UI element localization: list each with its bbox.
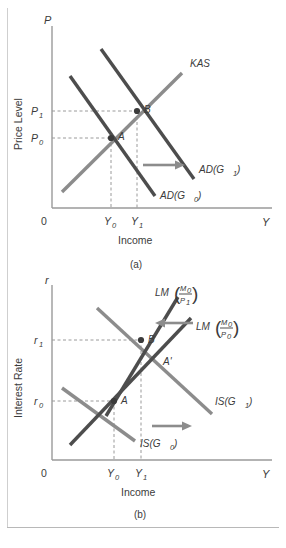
panel-a-origin-label: 0 (41, 215, 47, 227)
curve-is-g0-label: IS(G 0 ) (140, 438, 177, 452)
point-b-b-label: B (148, 334, 155, 345)
curve-lm-p1-label: LM ( M 0 P 1 ) (155, 283, 198, 307)
curve-ad-g1-label: AD(G 1 ) (198, 164, 240, 178)
panel-b-xtick-y0-base: Y (107, 467, 115, 479)
curve-is-g1-label-close: ) (248, 396, 252, 407)
panel-a-caption: (a) (130, 259, 142, 270)
panel-b-y-axis-title: Interest Rate (12, 358, 24, 418)
curve-lm-p1-paren-close: ) (192, 283, 198, 304)
curve-lm-p0-den-sub: 0 (227, 332, 232, 341)
curve-ad-g0-label-close: ) (197, 190, 201, 201)
panel-b: A B A' r Y 0 r 1 r 0 Y 0 Y (0, 275, 286, 535)
curve-lm-p0-num-base: M (221, 318, 228, 327)
panel-a-ytick-p1: P 1 (31, 105, 43, 120)
panel-a-xtick-y0: Y 0 (104, 215, 117, 230)
panel-b-ytick-r1-base: r (34, 334, 38, 346)
panel-b-is-shift-arrow (152, 422, 192, 431)
point-b-aprime-label: A' (162, 356, 173, 367)
panel-a-xtick-y1-sub: 1 (139, 221, 143, 230)
panel-b-x-axis-symbol: Y (262, 468, 270, 480)
panel-a: A B P Y 0 P 1 P 0 Y 0 Y 1 (0, 10, 286, 275)
panel-b-ytick-r1-sub: 1 (39, 340, 43, 349)
panel-a-chart: A B P Y 0 P 1 P 0 Y 0 Y 1 (0, 10, 286, 275)
curve-lm-p1-prefix: LM (155, 287, 170, 298)
curve-lm-p1-num-base: M (180, 284, 187, 293)
panel-b-xtick-y1: Y 1 (135, 467, 147, 482)
panel-a-x-axis-title: Income (118, 234, 153, 246)
panel-a-xtick-y1: Y 1 (131, 215, 143, 230)
panel-b-caption: (b) (134, 509, 146, 520)
panel-a-y-axis-title: Price Level (12, 98, 24, 150)
curve-ad-g1-label-close: ) (236, 164, 240, 175)
curve-ad-g0-label-base: AD(G (159, 190, 185, 201)
curve-is-g0-label-base: IS(G (140, 438, 161, 449)
panel-a-ytick-p1-base: P (31, 105, 38, 117)
curve-lm-p1-den-sub: 1 (186, 298, 190, 307)
curve-lm-p0-prefix: LM (196, 321, 211, 332)
cropped-caption-text (22, 0, 272, 5)
point-b-marker (134, 108, 140, 114)
panel-b-ytick-r0-sub: 0 (39, 401, 44, 410)
panel-b-xtick-y1-sub: 1 (143, 473, 147, 482)
panel-a-xtick-y0-sub: 0 (112, 221, 117, 230)
curve-kas-label: KAS (190, 58, 210, 69)
panel-a-y-axis-symbol: P (44, 14, 52, 26)
panel-b-chart: A B A' r Y 0 r 1 r 0 Y 0 Y (0, 275, 286, 535)
panel-a-xtick-y1-base: Y (131, 215, 139, 227)
point-b-b-marker (138, 337, 144, 343)
point-b-a-marker (111, 398, 117, 404)
point-b-label: B (144, 104, 151, 115)
panel-a-ytick-p0-sub: 0 (39, 138, 44, 147)
curve-is-g1-label: IS(G 1 ) (215, 396, 252, 410)
panel-a-ytick-p0-base: P (31, 132, 38, 144)
panel-a-ytick-p1-sub: 1 (39, 111, 43, 120)
panel-a-xtick-y0-base: Y (104, 215, 112, 227)
panel-b-xtick-y1-base: Y (135, 467, 143, 479)
curve-ad-g0-label: AD(G 0 ) (159, 190, 201, 204)
panel-b-ytick-r0: r 0 (34, 395, 44, 410)
panel-b-origin-label: 0 (41, 467, 47, 479)
panel-b-x-axis-title: Income (121, 486, 156, 498)
panel-b-ytick-r1: r 1 (34, 334, 43, 349)
panel-b-xtick-y0-sub: 0 (115, 473, 120, 482)
curve-lm-p1-den-base: P (180, 296, 185, 305)
panel-b-ytick-r0-base: r (34, 395, 38, 407)
point-a-marker (108, 135, 114, 141)
panel-b-y-axis-symbol: r (45, 275, 50, 286)
point-b-a-label: A (120, 395, 128, 406)
panel-a-shift-arrow (143, 161, 185, 170)
panel-a-x-axis-symbol: Y (262, 216, 270, 228)
curve-lm-p0-paren-close: ) (233, 317, 239, 338)
point-a-label: A (117, 131, 125, 142)
curve-lm-p0-den-base: P (221, 330, 226, 339)
curve-is-g1-label-base: IS(G (215, 396, 236, 407)
curve-lm-p0-label: LM ( M 0 P 0 ) (196, 317, 239, 341)
curve-is-g0-label-close: ) (173, 438, 177, 449)
panel-a-ytick-p0: P 0 (31, 132, 44, 147)
curve-ad-g1-label-base: AD(G (198, 164, 224, 175)
figure-page: A B P Y 0 P 1 P 0 Y 0 Y 1 (0, 0, 286, 548)
panel-b-xtick-y0: Y 0 (107, 467, 120, 482)
